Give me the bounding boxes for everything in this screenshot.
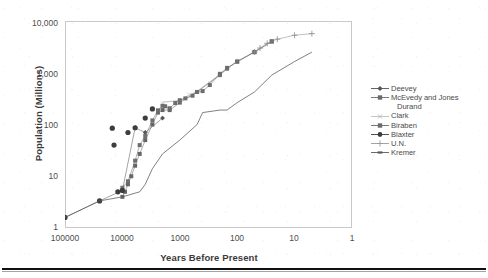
chart-figure: Population (Millions) 10,000 1,000 100 1… [0, 0, 488, 278]
legend-marker-dash [370, 148, 390, 157]
legend-item-durand[interactable]: Durand [370, 102, 486, 111]
x-tick-label: 10000 [97, 233, 147, 243]
legend-marker-square [370, 93, 390, 102]
legend-marker-x [370, 112, 390, 121]
y-tick-label: 1 [14, 222, 58, 232]
data-point [208, 83, 212, 87]
legend-key-square-icon [370, 93, 390, 102]
legend-key-dash-icon [370, 148, 390, 157]
data-point [150, 106, 155, 111]
x-tick-label: 10 [269, 233, 319, 243]
data-point [110, 126, 115, 131]
data-point [201, 89, 205, 93]
data-point [133, 159, 137, 163]
data-point [115, 189, 120, 194]
legend-item-biraben[interactable]: Biraben [370, 121, 486, 130]
data-point [143, 134, 147, 138]
chart-legend: DeeveyMcEvedy and JonesDurandClarkBirabe… [370, 84, 486, 158]
chart-plot-svg [65, 21, 352, 228]
data-point [292, 32, 298, 38]
data-point [143, 115, 148, 120]
legend-marker-square [370, 121, 390, 130]
x-tick-label: 1000 [155, 233, 205, 243]
series-biraben [120, 39, 273, 190]
legend-item-label: U.N. [391, 140, 406, 148]
legend-item-kremer[interactable]: Kremer [370, 148, 486, 157]
series-line [65, 118, 163, 217]
data-point [225, 66, 229, 70]
series-kremer [65, 52, 312, 217]
series-u-n [251, 31, 314, 55]
x-tick-label: 1 [327, 233, 377, 243]
data-point [126, 179, 130, 183]
legend-item-label: Biraben [391, 122, 417, 130]
legend-item-label: Kremer [391, 149, 416, 157]
data-series-layer [65, 31, 315, 220]
legend-item-label: Durand [391, 103, 422, 111]
legend-key-x-icon [370, 112, 390, 121]
data-point [125, 130, 130, 135]
series-deevey [65, 116, 165, 220]
data-point [111, 142, 116, 147]
x-tick-label: 100000 [40, 233, 90, 243]
data-point [195, 90, 199, 94]
series-line [254, 34, 311, 52]
data-point [178, 98, 182, 102]
y-tick-label: 1,000 [14, 69, 58, 79]
legend-key-diamond-icon [370, 84, 390, 93]
legend-marker-circle [370, 130, 390, 139]
data-point [156, 108, 160, 112]
legend-key-square-icon [370, 121, 390, 130]
data-point [173, 101, 177, 105]
legend-key-plus-icon [370, 139, 390, 148]
data-point [235, 60, 239, 64]
x-axis-title: Years Before Present [65, 252, 353, 263]
data-point [251, 49, 257, 55]
data-point [133, 125, 138, 130]
data-point [191, 94, 195, 98]
x-tick-label: 100 [212, 233, 262, 243]
data-point [150, 118, 154, 122]
legend-marker-plus [370, 139, 390, 148]
data-point [138, 143, 142, 147]
legend-item-label: Deevey [391, 85, 416, 93]
legend-item-u-n[interactable]: U.N. [370, 139, 486, 148]
data-point [218, 72, 222, 76]
legend-item-label: McEvedy and Jones [391, 94, 459, 102]
series-line [122, 41, 271, 188]
legend-item-deevey[interactable]: Deevey [370, 84, 486, 93]
data-point [138, 152, 142, 156]
y-tick-label: 10 [14, 171, 58, 181]
y-tick-label: 100 [14, 120, 58, 130]
legend-marker-diamond [370, 84, 390, 93]
data-point [309, 31, 315, 37]
data-point [161, 108, 165, 112]
data-point [274, 36, 280, 42]
series-line [65, 52, 312, 217]
data-point [163, 104, 167, 108]
legend-item-clark[interactable]: Clark [370, 112, 486, 121]
data-point [168, 106, 172, 110]
legend-item-mcevedy-and-jones[interactable]: McEvedy and Jones [370, 93, 486, 102]
y-tick-label: 10,000 [14, 18, 58, 28]
legend-key-circle-icon [370, 130, 390, 139]
series-blaxter [65, 106, 155, 220]
page-bottom-rule-shadow [2, 271, 486, 272]
data-point [120, 188, 125, 193]
legend-item-label: Clark [391, 112, 408, 120]
legend-item-blaxter[interactable]: Blaxter [370, 130, 486, 139]
data-point [183, 96, 187, 100]
y-axis-title: Population (Millions) [33, 14, 44, 214]
legend-item-label: Blaxter [391, 131, 414, 139]
